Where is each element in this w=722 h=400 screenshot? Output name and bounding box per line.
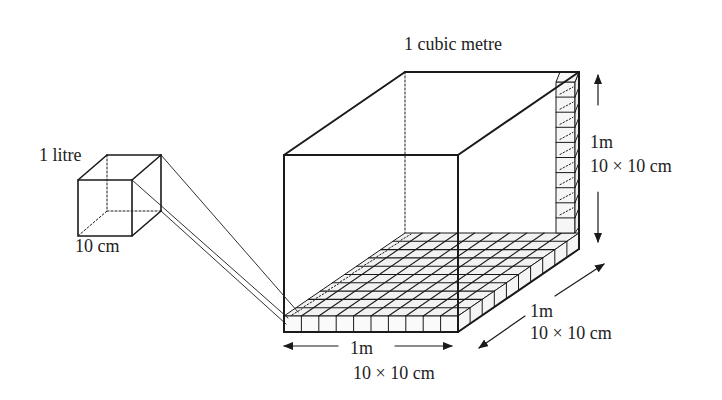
small-cube-label: 1 litre — [39, 146, 82, 164]
depth-label: 1m — [530, 302, 553, 320]
small-cube-edge — [78, 155, 107, 180]
small-cube-front — [78, 180, 132, 236]
small-cube-edge-label: 10 cm — [75, 237, 120, 255]
width-sub-label: 10 × 10 cm — [353, 364, 435, 382]
width-label: 1m — [350, 339, 373, 357]
litre-cubic-metre-diagram: 1 cubic metre 1 litre 10 cm 1m 10 × 10 c… — [0, 0, 722, 400]
small-cube-hidden-edge — [78, 211, 107, 236]
small-cube-edge — [132, 155, 161, 180]
small-cube-edge — [132, 211, 161, 236]
height-sub-label: 10 × 10 cm — [590, 157, 672, 175]
depth-arrow — [479, 316, 525, 348]
cube-edge — [284, 72, 405, 155]
height-label: 1m — [590, 133, 613, 151]
depth-arrow — [555, 264, 604, 296]
title-label: 1 cubic metre — [404, 35, 502, 53]
projection-line — [161, 155, 298, 312]
depth-sub-label: 10 × 10 cm — [530, 324, 612, 342]
projection-line — [161, 211, 286, 324]
projection-line — [132, 180, 288, 318]
